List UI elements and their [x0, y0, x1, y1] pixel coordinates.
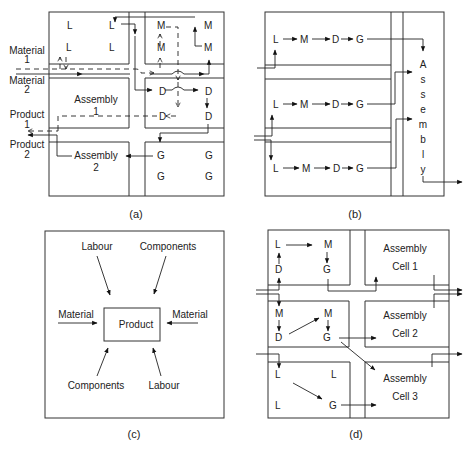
- figure-canvas: L L L L M M M M D D D D G G G G Assembly…: [0, 0, 476, 452]
- material-2-cross: [150, 71, 204, 74]
- row1-G: G: [356, 34, 364, 45]
- caption-c: (c): [128, 428, 141, 440]
- material-2-number: 2: [24, 84, 30, 95]
- assembly-cell-1-number: Cell 1: [392, 261, 418, 272]
- d-cell1-L: L: [275, 239, 281, 250]
- components-bottom-label: Components: [68, 380, 125, 391]
- assembly-3-output: [432, 354, 462, 367]
- product-1-flow: [58, 116, 157, 128]
- cell-a-M-1: M: [157, 20, 165, 31]
- d-cell2-G: G: [323, 332, 331, 343]
- d-cell3-L3: L: [275, 400, 281, 411]
- cell-a-D-3: D: [159, 111, 166, 122]
- panel-b: L M D G L M D G L M D G A s s e: [254, 12, 462, 220]
- labour-bottom-label: Labour: [148, 380, 180, 391]
- cell-a-M-2: M: [204, 20, 212, 31]
- assembly-letter: A: [420, 59, 427, 70]
- l-to-aisle-solid: [121, 24, 135, 34]
- d-cell1-M: M: [324, 239, 332, 250]
- assembly-letter: m: [419, 119, 427, 130]
- cell-a-G-2: G: [205, 150, 213, 161]
- row3-G: G: [356, 163, 364, 174]
- labour-bottom-arrow: [153, 348, 161, 376]
- assembly-letter: b: [420, 134, 426, 145]
- row1-to-assembly: [367, 39, 423, 51]
- d-cell1-D: D: [275, 264, 282, 275]
- cell-a-G-1: G: [157, 150, 165, 161]
- cell-a-L-2: L: [109, 20, 115, 31]
- assembly-1-number: 1: [93, 106, 99, 117]
- assembly-cell-3-number: Cell 3: [392, 391, 418, 402]
- assembly-letter: y: [421, 164, 426, 175]
- cell-a-G-4: G: [205, 171, 213, 182]
- material-left-label: Material: [58, 309, 94, 320]
- d-cell1-to-assembly1: [328, 277, 376, 291]
- components-bottom-arrow: [97, 348, 108, 376]
- caption-a: (a): [129, 208, 142, 220]
- row3-L: L: [273, 163, 279, 174]
- assembly-letter: e: [420, 104, 426, 115]
- m-up-flow: [195, 27, 202, 46]
- row2-D: D: [332, 99, 339, 110]
- assembly-cell-2-number: Cell 2: [392, 328, 418, 339]
- assembly-1-output: [434, 275, 462, 290]
- assembly-2-label: Assembly: [74, 150, 117, 161]
- cell-a-M-3: M: [157, 42, 165, 53]
- to-d-solid: [135, 36, 152, 90]
- labour-top-label: Labour: [81, 241, 113, 252]
- caption-d: (d): [349, 428, 362, 440]
- assembly-cell-1-label: Assembly: [383, 243, 426, 254]
- row3-input: [254, 140, 271, 160]
- d-cell3-L2: L: [331, 369, 337, 380]
- row2-L: L: [273, 99, 279, 110]
- cell-a-D-1: D: [159, 86, 166, 97]
- d-cell2-D: D: [275, 332, 282, 343]
- cell-a-L-3: L: [66, 42, 72, 53]
- row2-to-assembly: [367, 72, 412, 104]
- top-return-flow: [115, 17, 195, 22]
- row3-D: D: [333, 163, 340, 174]
- components-top-label: Components: [140, 241, 197, 252]
- row3-M: M: [302, 163, 310, 174]
- material-1-number: 1: [24, 54, 30, 65]
- assembly-output: [423, 176, 462, 182]
- d-cell2-M2: M: [324, 308, 332, 319]
- labour-top-arrow: [97, 256, 110, 295]
- d-cell2-to-assembly3: [341, 342, 375, 370]
- d-cell2-M1: M: [275, 308, 283, 319]
- row1-L: L: [273, 34, 279, 45]
- m-to-d-flow: [166, 27, 178, 80]
- row2-input: [254, 115, 272, 136]
- cell-a-M-4: M: [204, 42, 212, 53]
- d-cell1-G: G: [323, 264, 331, 275]
- material-2-to-M: [204, 60, 209, 74]
- d-cell3-G: G: [329, 400, 337, 411]
- row1-D: D: [332, 34, 339, 45]
- components-top-arrow: [154, 256, 166, 294]
- row1-M: M: [300, 34, 308, 45]
- assembly-2-number: 2: [93, 162, 99, 173]
- assembly-vertical-label: A s s e m b l y: [419, 59, 427, 175]
- assembly-letter: s: [421, 74, 426, 85]
- d-cell3-L1: L: [275, 369, 281, 380]
- product-1-number: 1: [24, 119, 30, 130]
- cell-a-D-4: D: [205, 111, 212, 122]
- material-1-flow: [16, 69, 154, 73]
- material-right-label: Material: [172, 309, 208, 320]
- panel-c: Product Labour Components Material Mater…: [45, 231, 224, 440]
- assembly-cell-2-label: Assembly: [383, 310, 426, 321]
- d-to-g-solid: [160, 124, 208, 142]
- assembly-1-label: Assembly: [74, 94, 117, 105]
- cell-a-L-4: L: [109, 42, 115, 53]
- d-to-d-solid: [165, 87, 198, 90]
- panel-a: L L L L M M M M D D D D G G G G Assembly…: [9, 12, 224, 220]
- panel-d: L M D G M M D G L L L G Assembly Cell 1 …: [256, 230, 462, 440]
- product-label: Product: [119, 319, 154, 330]
- row2-M: M: [300, 99, 308, 110]
- caption-b: (b): [348, 208, 361, 220]
- cell-a-G-3: G: [157, 171, 165, 182]
- cell-a-L-1: L: [67, 20, 73, 31]
- panel-d-frame: [268, 230, 449, 418]
- row3-to-assembly: [367, 119, 412, 168]
- row2-G: G: [356, 99, 364, 110]
